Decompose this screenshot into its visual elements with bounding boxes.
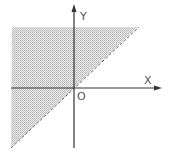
y-axis-arrow-icon (72, 4, 77, 12)
y-axis-label: Y (79, 10, 87, 23)
x-axis-arrow-icon (154, 86, 162, 91)
origin-label: O (77, 90, 86, 103)
x-axis-label: X (144, 74, 152, 87)
inequality-diagram: Y X O (0, 0, 169, 155)
